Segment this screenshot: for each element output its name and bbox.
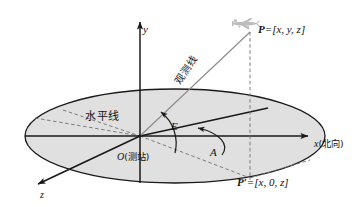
label-point-P-symbol: P <box>258 23 265 35</box>
label-point-P-prime-coords: =[x, 0, z] <box>247 176 289 188</box>
label-point-P: P=[x, y, z] <box>258 24 305 35</box>
aircraft-icon <box>232 18 260 29</box>
label-axis-y: y <box>143 24 148 35</box>
label-point-P-coords: =[x, y, z] <box>265 23 305 35</box>
label-axis-z: z <box>40 190 44 200</box>
label-azimuth-angle: A <box>210 147 217 158</box>
label-origin: O(测站) <box>117 152 149 162</box>
label-point-P-prime-symbol: P′ <box>237 176 247 188</box>
origin-point <box>139 135 142 138</box>
label-horizon-line: 水平线 <box>85 111 120 122</box>
label-point-P-prime: P′=[x, 0, z] <box>237 177 288 188</box>
figure-canvas: P=[x, y, z] P′=[x, 0, z] x(北向) y z O(测站)… <box>0 0 352 212</box>
label-axis-x-direction: (北向) <box>318 138 343 149</box>
label-axis-x: x(北向) <box>314 139 344 149</box>
label-origin-station: (测站) <box>124 151 149 162</box>
label-elevation-angle: E <box>171 121 178 132</box>
